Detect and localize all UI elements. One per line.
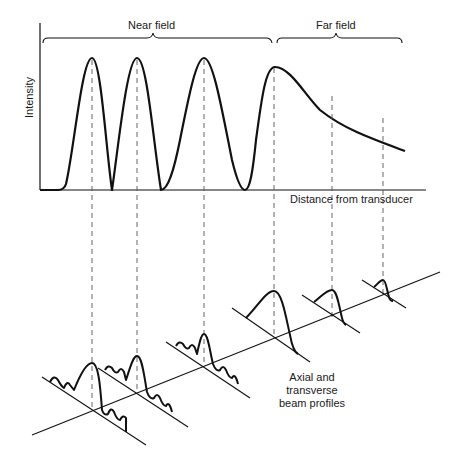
beam-profile-1 — [50, 363, 126, 432]
near-field-label: Near field — [128, 19, 175, 31]
beam-profile-3 — [176, 334, 238, 384]
beam-profile-5 — [314, 290, 346, 325]
beam-profile-2 — [105, 356, 172, 412]
profiles-caption-line-3: beam profiles — [270, 397, 354, 410]
y-axis-label: Intensity — [23, 77, 35, 118]
transverse-line-3 — [166, 342, 250, 398]
intensity-curve — [40, 58, 405, 190]
x-axis-label: Distance from transducer — [290, 193, 413, 205]
transverse-line-4 — [232, 308, 310, 362]
transverse-line-5 — [302, 295, 360, 333]
transverse-line-1 — [42, 377, 146, 445]
transverse-lines — [42, 280, 406, 445]
profiles-caption-line-1: Axial and — [270, 371, 354, 384]
profiles-caption: Axial and transverse beam profiles — [270, 371, 354, 410]
near-field-brace — [43, 33, 272, 43]
beam-diagram — [0, 0, 459, 466]
transverse-line-2 — [98, 368, 188, 427]
beam-profile-6 — [374, 280, 393, 301]
far-field-brace — [277, 33, 402, 43]
profiles-caption-line-2: transverse — [270, 384, 354, 397]
transverse-line-6 — [362, 280, 406, 308]
far-field-label: Far field — [316, 19, 356, 31]
